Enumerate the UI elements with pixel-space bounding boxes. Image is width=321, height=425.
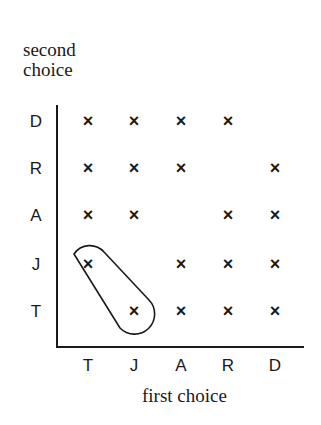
point-A-J: × xyxy=(171,254,191,275)
point-D-A: × xyxy=(265,205,285,226)
point-T-D: × xyxy=(78,111,98,132)
point-J-T: × xyxy=(124,301,144,322)
x-tick-J: J xyxy=(124,356,144,376)
point-A-T: × xyxy=(171,301,191,322)
y-tick-J: J xyxy=(26,255,46,275)
point-R-T: × xyxy=(218,301,238,322)
point-R-J: × xyxy=(218,254,238,275)
x-tick-A: A xyxy=(171,356,191,376)
y-axis-label-line1: second xyxy=(23,40,76,60)
y-tick-R: R xyxy=(26,159,46,179)
y-tick-A: A xyxy=(26,206,46,226)
point-J-R: × xyxy=(124,158,144,179)
point-J-A: × xyxy=(124,205,144,226)
point-A-D: × xyxy=(171,111,191,132)
point-D-T: × xyxy=(265,301,285,322)
x-axis-label: first choice xyxy=(142,385,227,407)
point-R-A: × xyxy=(218,205,238,226)
point-A-R: × xyxy=(171,158,191,179)
point-R-D: × xyxy=(218,111,238,132)
point-T-J: × xyxy=(78,254,98,275)
y-tick-T: T xyxy=(26,302,46,322)
x-tick-D: D xyxy=(265,356,285,376)
point-D-R: × xyxy=(265,158,285,179)
point-T-A: × xyxy=(78,205,98,226)
point-J-D: × xyxy=(124,111,144,132)
y-axis-label-line2: choice xyxy=(23,60,76,80)
point-D-J: × xyxy=(265,254,285,275)
y-axis-label: second choice xyxy=(23,40,76,80)
y-tick-D: D xyxy=(26,112,46,132)
x-tick-R: R xyxy=(218,356,238,376)
x-tick-T: T xyxy=(78,356,98,376)
point-T-R: × xyxy=(78,158,98,179)
